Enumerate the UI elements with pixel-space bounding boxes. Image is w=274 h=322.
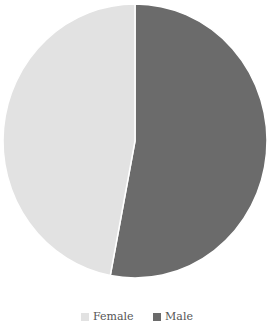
legend-label-female: Female — [93, 310, 134, 322]
legend-swatch-female — [81, 313, 89, 321]
legend-item-male: Male — [153, 310, 193, 322]
legend: Female Male — [0, 310, 274, 322]
legend-swatch-male — [153, 313, 161, 321]
pie-slice-female — [3, 4, 135, 276]
legend-item-female: Female — [81, 310, 134, 322]
pie-slices — [3, 4, 267, 278]
legend-label-male: Male — [165, 310, 193, 322]
pie-chart — [0, 0, 274, 322]
